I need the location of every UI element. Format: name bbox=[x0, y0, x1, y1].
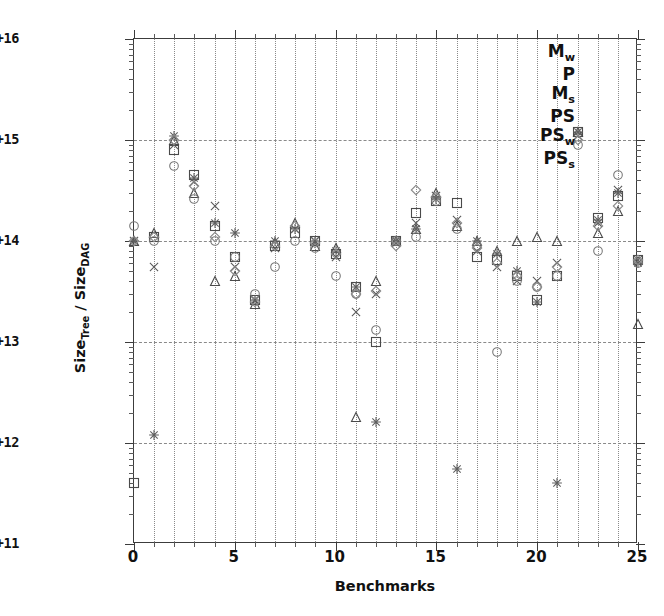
y-axis-tick-label: 1e+11 bbox=[0, 535, 19, 551]
y-axis-tick-label: 1e+12 bbox=[0, 434, 19, 450]
y-axis-minor-tick bbox=[636, 473, 641, 474]
vertical-gridline bbox=[295, 39, 296, 542]
y-axis-minor-tick bbox=[129, 453, 134, 454]
x-axis-minor-tick bbox=[396, 542, 397, 547]
y-axis-minor-tick bbox=[636, 79, 641, 80]
y-axis-tick bbox=[125, 342, 134, 343]
y-axis-minor-tick bbox=[129, 347, 134, 348]
legend-item-psw: PSw bbox=[470, 126, 575, 149]
vertical-gridline bbox=[235, 39, 236, 542]
vertical-gridline bbox=[396, 39, 397, 542]
y-axis-minor-tick bbox=[129, 473, 134, 474]
y-axis-minor-tick bbox=[636, 251, 641, 252]
y-axis-minor-tick bbox=[129, 61, 134, 62]
vertical-gridline bbox=[154, 39, 155, 542]
y-axis-tick bbox=[636, 140, 645, 141]
y-axis-tick bbox=[125, 140, 134, 141]
legend-item-ps: PS bbox=[470, 107, 575, 126]
y-axis-tick bbox=[636, 443, 645, 444]
y-axis-minor-tick bbox=[636, 459, 641, 460]
x-axis-tick bbox=[336, 30, 337, 39]
vertical-gridline bbox=[416, 39, 417, 542]
x-axis-minor-tick bbox=[416, 542, 417, 547]
y-axis-minor-tick bbox=[129, 312, 134, 313]
x-axis-tick bbox=[235, 30, 236, 39]
y-axis-minor-tick bbox=[636, 347, 641, 348]
y-axis-minor-tick bbox=[636, 294, 641, 295]
x-axis-tick-label: 10 bbox=[324, 548, 345, 566]
vertical-gridline bbox=[336, 39, 337, 542]
y-axis-minor-tick bbox=[129, 145, 134, 146]
y-axis-minor-tick bbox=[636, 448, 641, 449]
chart-figure: SizeTree / SizeDAG Benchmarks MwPMsPSPSw… bbox=[0, 0, 664, 616]
x-axis-minor-tick bbox=[497, 34, 498, 39]
x-axis-minor-tick bbox=[356, 542, 357, 547]
y-axis-minor-tick bbox=[636, 382, 641, 383]
x-axis-minor-tick bbox=[255, 34, 256, 39]
x-axis-minor-tick bbox=[295, 34, 296, 39]
y-axis-minor-tick bbox=[636, 193, 641, 194]
x-axis-minor-tick bbox=[578, 34, 579, 39]
y-axis-tick bbox=[636, 342, 645, 343]
y-axis-minor-tick bbox=[129, 263, 134, 264]
y-axis-minor-tick bbox=[636, 271, 641, 272]
x-axis-tick-label: 25 bbox=[627, 548, 648, 566]
y-axis-minor-tick bbox=[129, 246, 134, 247]
y-axis-minor-tick bbox=[636, 69, 641, 70]
x-axis-minor-tick bbox=[215, 34, 216, 39]
y-axis-tick-label: 1e+15 bbox=[0, 131, 19, 147]
y-axis-minor-tick bbox=[636, 453, 641, 454]
y-axis-minor-tick bbox=[129, 271, 134, 272]
y-axis-minor-tick bbox=[636, 263, 641, 264]
y-axis-tick bbox=[125, 443, 134, 444]
x-axis-tick-label: 5 bbox=[229, 548, 239, 566]
y-axis-minor-tick bbox=[129, 364, 134, 365]
x-axis-minor-tick bbox=[618, 542, 619, 547]
y-axis-title-text: SizeTree / SizeDAG bbox=[72, 243, 88, 374]
x-axis-minor-tick bbox=[618, 34, 619, 39]
vertical-gridline bbox=[275, 39, 276, 542]
x-axis-tick-label: 0 bbox=[128, 548, 138, 566]
y-axis-minor-tick bbox=[636, 180, 641, 181]
x-axis-minor-tick bbox=[557, 34, 558, 39]
y-axis-minor-tick bbox=[129, 44, 134, 45]
x-axis-tick bbox=[436, 30, 437, 39]
y-axis-minor-tick bbox=[129, 257, 134, 258]
legend: MwPMsPSPSwPSs bbox=[470, 42, 575, 172]
x-axis-minor-tick bbox=[194, 542, 195, 547]
legend-item-ms: Ms bbox=[470, 84, 575, 107]
x-axis-minor-tick bbox=[154, 542, 155, 547]
y-axis-minor-tick bbox=[636, 55, 641, 56]
x-axis-minor-tick bbox=[295, 542, 296, 547]
x-axis-title-text: Benchmarks bbox=[335, 578, 435, 594]
vertical-gridline bbox=[255, 39, 256, 542]
y-axis-minor-tick bbox=[636, 358, 641, 359]
y-axis-minor-tick bbox=[636, 246, 641, 247]
y-axis-minor-tick bbox=[129, 382, 134, 383]
y-axis-minor-tick bbox=[129, 358, 134, 359]
x-axis-minor-tick bbox=[174, 34, 175, 39]
y-axis-minor-tick bbox=[636, 49, 641, 50]
vertical-gridline bbox=[356, 39, 357, 542]
y-axis-minor-tick bbox=[636, 170, 641, 171]
legend-item-p: P bbox=[470, 65, 575, 84]
x-axis-minor-tick bbox=[416, 34, 417, 39]
vertical-gridline bbox=[315, 39, 316, 542]
x-axis-minor-tick bbox=[315, 542, 316, 547]
x-axis-minor-tick bbox=[457, 34, 458, 39]
x-axis-minor-tick bbox=[215, 542, 216, 547]
y-axis-minor-tick bbox=[129, 483, 134, 484]
y-axis-minor-tick bbox=[636, 395, 641, 396]
x-axis-minor-tick bbox=[457, 542, 458, 547]
x-axis-minor-tick bbox=[194, 34, 195, 39]
y-axis-minor-tick bbox=[129, 465, 134, 466]
y-axis-tick bbox=[125, 241, 134, 242]
y-axis-minor-tick bbox=[129, 49, 134, 50]
y-axis-minor-tick bbox=[636, 372, 641, 373]
x-axis-minor-tick bbox=[315, 34, 316, 39]
y-axis-minor-tick bbox=[636, 352, 641, 353]
y-axis-minor-tick bbox=[129, 294, 134, 295]
x-axis-tick bbox=[638, 30, 639, 39]
x-axis-minor-tick bbox=[275, 542, 276, 547]
y-axis-minor-tick bbox=[129, 211, 134, 212]
